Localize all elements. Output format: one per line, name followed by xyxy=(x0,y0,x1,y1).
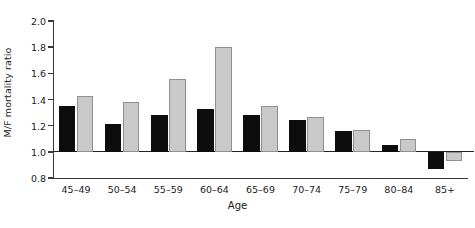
y-axis-title-text: M/F mortality ratio xyxy=(3,47,14,137)
x-tick-label: 55–59 xyxy=(154,184,183,195)
y-tick-label: 1.8 xyxy=(14,42,46,53)
bar-dark-60-64 xyxy=(197,109,214,152)
y-tick-label: 1.6 xyxy=(14,68,46,79)
plot-area xyxy=(53,21,468,178)
bar-dark-55-59 xyxy=(151,115,168,152)
bar-light-45-49 xyxy=(77,96,94,152)
x-tick-label: 75–79 xyxy=(338,184,367,195)
bar-light-70-74 xyxy=(307,117,324,152)
bar-light-85+ xyxy=(446,152,463,161)
bar-dark-50-54 xyxy=(105,124,122,151)
y-tick-label: 1.2 xyxy=(14,120,46,131)
y-axis-title: M/F mortality ratio xyxy=(0,0,17,228)
y-tick-label: 2.0 xyxy=(14,16,46,27)
bar-light-80-84 xyxy=(400,139,417,152)
x-tick-label: 85+ xyxy=(435,184,455,195)
x-tick-label: 50–54 xyxy=(108,184,137,195)
bar-light-65-69 xyxy=(261,106,278,152)
x-tick-label: 45–49 xyxy=(62,184,91,195)
bar-light-60-64 xyxy=(215,47,232,152)
bar-light-75-79 xyxy=(353,130,370,152)
x-axis-title: Age xyxy=(0,200,475,211)
y-tick-label: 1.4 xyxy=(14,94,46,105)
x-tick-label: 65–69 xyxy=(246,184,275,195)
y-tick-label: 0.8 xyxy=(14,173,46,184)
bar-dark-75-79 xyxy=(335,131,352,152)
bar-light-55-59 xyxy=(169,79,186,152)
bar-dark-65-69 xyxy=(243,115,260,152)
x-tick-label: 60–64 xyxy=(200,184,229,195)
bar-dark-70-74 xyxy=(289,120,306,151)
bar-dark-80-84 xyxy=(382,145,399,152)
x-tick-label: 80–84 xyxy=(384,184,413,195)
chart-container: M/F mortality ratio 2.01.81.61.41.21.00.… xyxy=(0,0,475,228)
bar-dark-45-49 xyxy=(59,106,76,152)
bar-dark-85+ xyxy=(428,152,445,169)
y-tick-label: 1.0 xyxy=(14,146,46,157)
x-axis-line xyxy=(53,178,468,179)
x-tick-label: 70–74 xyxy=(292,184,321,195)
bar-light-50-54 xyxy=(123,102,140,152)
